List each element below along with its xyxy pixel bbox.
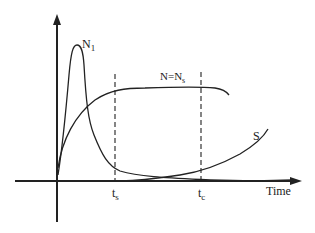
N1-curve (58, 45, 292, 181)
x-axis-label: Time (266, 184, 291, 198)
S-label: S (253, 129, 260, 143)
S-curve (120, 129, 268, 181)
tc-label: tc (198, 186, 205, 202)
N1-label: N1 (82, 37, 95, 53)
growth-diagram: N1 N=Ns S ts tc Time (0, 0, 315, 233)
y-axis-arrow-icon (53, 14, 61, 25)
N-Ns-curve (58, 87, 229, 168)
x-axis-arrow-icon (290, 177, 302, 185)
N-Ns-label: N=Ns (160, 70, 185, 85)
ts-label: ts (112, 186, 119, 202)
